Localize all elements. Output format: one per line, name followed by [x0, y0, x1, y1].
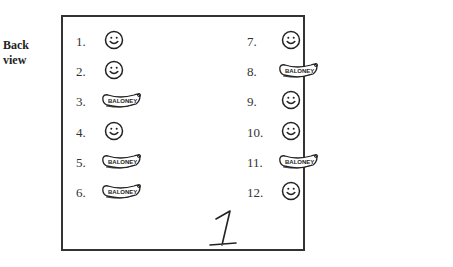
item-number: 2. [76, 64, 100, 80]
smiley-face-icon [104, 30, 124, 54]
baloney-sausage-icon: BALONEY [100, 92, 142, 113]
smiley-face-icon [104, 121, 124, 145]
list-item: 7. [247, 29, 301, 55]
list-item: 11.BALONEY [247, 150, 319, 176]
list-item: 8.BALONEY [247, 59, 319, 85]
smiley-face-icon [281, 121, 301, 145]
item-number: 7. [247, 34, 277, 50]
list-item: 6.BALONEY [76, 180, 142, 206]
back-view-label-line1: Back [3, 38, 29, 53]
list-item: 2. [76, 59, 124, 85]
list-item: 12. [247, 180, 301, 206]
smiley-face-icon [281, 90, 301, 114]
item-number: 6. [76, 185, 100, 201]
list-item: 3.BALONEY [76, 89, 142, 115]
list-item: 10. [247, 120, 301, 146]
svg-text:BALONEY: BALONEY [108, 188, 137, 194]
smiley-face-icon [281, 181, 301, 205]
item-number: 4. [76, 125, 100, 141]
smiley-face-icon [281, 30, 301, 54]
list-item: 5.BALONEY [76, 150, 142, 176]
smiley-face-icon [104, 60, 124, 84]
item-number: 12. [247, 185, 277, 201]
item-number: 9. [247, 94, 277, 110]
card-number-handwritten [208, 205, 248, 250]
svg-text:BALONEY: BALONEY [108, 158, 137, 164]
item-number: 3. [76, 94, 100, 110]
list-item: 4. [76, 120, 124, 146]
list-item: 1. [76, 29, 124, 55]
item-number: 8. [247, 64, 277, 80]
baloney-sausage-icon: BALONEY [100, 183, 142, 204]
list-item: 9. [247, 89, 301, 115]
svg-text:BALONEY: BALONEY [285, 158, 314, 164]
item-number: 10. [247, 125, 277, 141]
item-number: 1. [76, 34, 100, 50]
baloney-sausage-icon: BALONEY [277, 62, 319, 83]
item-number: 5. [76, 155, 100, 171]
svg-text:BALONEY: BALONEY [108, 97, 137, 103]
back-view-label-line2: view [3, 53, 29, 68]
back-view-label: Back view [3, 38, 29, 68]
baloney-sausage-icon: BALONEY [100, 153, 142, 174]
svg-text:BALONEY: BALONEY [285, 67, 314, 73]
item-number: 11. [247, 155, 277, 171]
baloney-sausage-icon: BALONEY [277, 153, 319, 174]
